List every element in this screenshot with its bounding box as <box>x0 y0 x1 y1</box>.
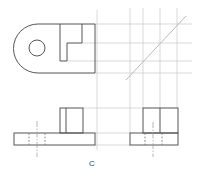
side-view-base <box>130 133 178 145</box>
construction-lines <box>67 8 192 150</box>
front-view-base <box>14 133 95 145</box>
top-view <box>13 24 95 73</box>
front-view <box>14 108 95 157</box>
orthographic-drawing: C <box>0 0 199 177</box>
top-view-hole <box>29 40 45 56</box>
front-view-upright <box>60 108 83 133</box>
figure-label: C <box>89 159 95 168</box>
side-view <box>130 108 178 157</box>
top-view-outline <box>13 24 95 73</box>
top-view-upright <box>60 24 82 61</box>
